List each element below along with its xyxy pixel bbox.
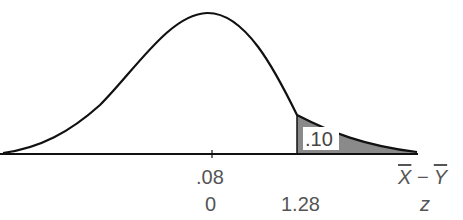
mean-value-label: .08 [196, 167, 224, 187]
bell-curve [3, 13, 417, 153]
y-bar-symbol: Y [434, 166, 447, 188]
z-critical-label: 1.28 [281, 194, 320, 214]
diff-variable-label: X − Y [398, 167, 447, 187]
z-variable-label: z [420, 194, 430, 214]
z-zero-label: 0 [205, 194, 216, 214]
x-bar-symbol: X [398, 166, 411, 188]
normal-curve-plot [0, 0, 463, 220]
area-label: .10 [305, 129, 333, 149]
minus-symbol: − [417, 166, 429, 188]
